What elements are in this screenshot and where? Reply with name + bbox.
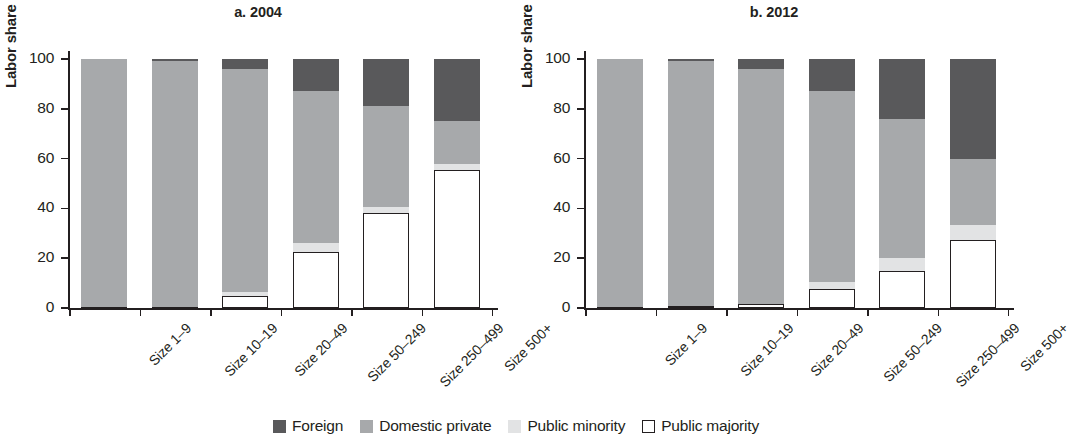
y-axis-tick-label: 40 <box>14 198 54 216</box>
panel-b-y-axis-label: Labor share <box>518 0 535 88</box>
y-axis-tick <box>61 108 68 110</box>
y-axis-tick <box>577 58 584 60</box>
bar-segment-public-minority <box>363 207 409 213</box>
bar-segment-public-majority <box>738 304 784 308</box>
bar-segment-public-minority <box>293 243 339 252</box>
y-axis-tick <box>61 257 68 259</box>
x-axis-tick <box>351 309 353 316</box>
bar-segment-domestic-private <box>222 69 268 292</box>
stacked-bar <box>879 59 925 308</box>
x-axis-tick <box>140 309 142 316</box>
x-axis-category-label: Size 10–19 <box>736 320 795 379</box>
bar-segment-foreign <box>738 59 784 69</box>
legend-label-public-minority: Public minority <box>527 417 625 435</box>
legend: Foreign Domestic private Public minority… <box>0 417 1032 435</box>
legend-item-public-minority: Public minority <box>508 417 625 435</box>
y-axis-tick-label: 20 <box>530 248 570 266</box>
x-axis-tick <box>1008 309 1010 316</box>
x-axis-tick <box>210 309 212 316</box>
x-axis-tick <box>585 309 587 316</box>
bar-segment-foreign <box>363 59 409 106</box>
bar-segment-domestic-private <box>597 59 643 307</box>
bar-segment-public-majority <box>152 307 198 309</box>
x-axis-tick <box>69 309 71 316</box>
bar-segment-domestic-private <box>434 121 480 163</box>
x-axis-tick <box>726 309 728 316</box>
bar-segment-foreign <box>222 59 268 69</box>
bar-segment-public-minority <box>222 292 268 295</box>
x-axis-category-label: Size 500+ <box>1016 320 1070 374</box>
square-filled-dark-icon <box>273 420 286 433</box>
bar-segment-public-minority <box>879 258 925 270</box>
bar-segment-foreign <box>434 59 480 121</box>
x-axis-line <box>68 308 498 310</box>
legend-label-public-majority: Public majority <box>661 417 759 435</box>
stacked-bar <box>597 59 643 308</box>
y-axis-tick-label: 20 <box>14 248 54 266</box>
panel-b-2012: b. 2012 020406080100Size 1–9Size 10–19Si… <box>516 0 1032 400</box>
y-axis-tick <box>61 58 68 60</box>
y-axis-tick <box>577 158 584 160</box>
bar-segment-domestic-private <box>293 91 339 242</box>
x-axis-category-label: Size 20–49 <box>291 320 350 379</box>
x-axis-category-label: Size 20–49 <box>807 320 866 379</box>
x-axis-category-label: Size 250–499 <box>952 320 1022 390</box>
x-axis-tick <box>281 309 283 316</box>
legend-item-public-majority: Public majority <box>642 417 759 435</box>
x-axis-tick <box>656 309 658 316</box>
stacked-bar <box>738 59 784 308</box>
stacked-bar <box>81 59 127 308</box>
bar-segment-foreign <box>668 59 714 61</box>
bar-segment-public-majority <box>668 306 714 308</box>
bar-segment-domestic-private <box>668 61 714 306</box>
x-axis-tick <box>938 309 940 316</box>
x-axis-tick <box>797 309 799 316</box>
bar-segment-foreign <box>293 59 339 91</box>
y-axis-tick <box>577 307 584 309</box>
legend-item-domestic-private: Domestic private <box>360 417 491 435</box>
x-axis-category-label: Size 1–9 <box>661 320 710 369</box>
bar-segment-domestic-private <box>81 59 127 307</box>
bar-segment-domestic-private <box>809 91 855 281</box>
stacked-bar <box>222 59 268 308</box>
panel-b-plot-area: 020406080100Size 1–9Size 10–19Size 20–49… <box>516 0 1032 400</box>
bar-segment-public-majority <box>222 296 268 308</box>
bar-segment-domestic-private <box>879 119 925 258</box>
y-axis-tick <box>61 208 68 210</box>
stacked-bar <box>293 59 339 308</box>
bar-segment-public-majority <box>293 252 339 308</box>
bar-segment-domestic-private <box>950 159 996 225</box>
x-axis-tick <box>492 309 494 316</box>
y-axis-tick-label: 60 <box>530 149 570 167</box>
bar-segment-domestic-private <box>363 106 409 207</box>
bar-segment-public-majority <box>879 271 925 308</box>
y-axis-tick-label: 0 <box>530 298 570 316</box>
bar-segment-public-minority <box>434 164 480 170</box>
x-axis-category-label: Size 50–249 <box>364 320 429 385</box>
bar-segment-domestic-private <box>738 69 784 304</box>
square-filled-mid-icon <box>360 420 373 433</box>
y-axis-tick <box>577 257 584 259</box>
x-axis-category-label: Size 50–249 <box>880 320 945 385</box>
stacked-bar <box>363 59 409 308</box>
bar-segment-public-majority <box>597 307 643 309</box>
bar-segment-foreign <box>950 59 996 159</box>
stacked-bar <box>434 59 480 308</box>
bar-segment-public-majority <box>809 289 855 308</box>
y-axis-tick-label: 80 <box>14 99 54 117</box>
bar-segment-public-minority <box>950 225 996 240</box>
bar-segment-public-majority <box>363 213 409 308</box>
y-axis-tick-label: 0 <box>14 298 54 316</box>
y-axis-line <box>584 51 586 309</box>
stacked-bar <box>152 59 198 308</box>
panel-a-2004: a. 2004 Labor share 020406080100Size 1–9… <box>0 0 516 400</box>
y-axis-tick-label: 60 <box>14 149 54 167</box>
legend-label-domestic-private: Domestic private <box>379 417 491 435</box>
y-axis-line <box>68 51 70 309</box>
y-axis-tick-label: 80 <box>530 99 570 117</box>
panel-a-plot-area: 020406080100Size 1–9Size 10–19Size 20–49… <box>0 0 516 400</box>
x-axis-tick <box>422 309 424 316</box>
y-axis-tick <box>577 108 584 110</box>
y-axis-tick <box>61 307 68 309</box>
square-filled-light-icon <box>508 420 521 433</box>
